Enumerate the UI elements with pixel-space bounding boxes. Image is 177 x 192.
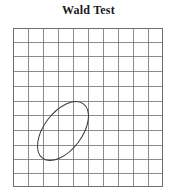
grid-lines (13, 28, 163, 187)
plot-area (13, 28, 163, 187)
grid-plot-svg (13, 28, 163, 187)
confidence-region-group (27, 92, 98, 169)
page-title: Wald Test (0, 3, 177, 17)
confidence-region-ellipse (27, 92, 98, 169)
wald-test-figure: Wald Test (0, 0, 177, 192)
